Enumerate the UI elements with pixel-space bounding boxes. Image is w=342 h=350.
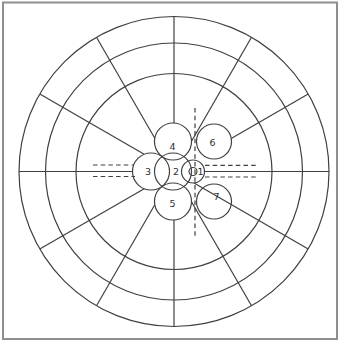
cluster-circle-1-label: 1 bbox=[197, 166, 203, 177]
polar-diagram-figure: 1 2 3 4 5 6 7 bbox=[0, 0, 342, 350]
polar-diagram-canvas: 1 2 3 4 5 6 7 bbox=[0, 0, 342, 350]
cluster-circle-5-label: 5 bbox=[169, 198, 175, 209]
cluster-circle-2-label: 2 bbox=[173, 166, 179, 177]
cluster-circle-4-label: 4 bbox=[169, 141, 175, 152]
cluster-circle-3-label: 3 bbox=[145, 166, 151, 177]
figure-background bbox=[0, 0, 342, 350]
cluster-circle-6-label: 6 bbox=[209, 137, 215, 148]
cluster-circle-7-label: 7 bbox=[213, 191, 219, 202]
